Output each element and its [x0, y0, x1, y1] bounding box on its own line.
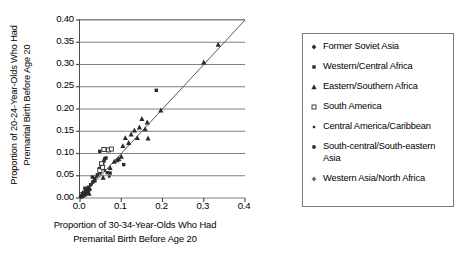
data-point — [312, 45, 317, 50]
data-point — [145, 136, 150, 141]
data-point — [132, 128, 137, 133]
triangle-marker-icon — [309, 81, 323, 92]
legend-item[interactable]: Eastern/Southern Africa — [309, 81, 449, 93]
legend-label: South-central/South-eastern Asia — [323, 141, 449, 164]
x-tick-label: 0.3 — [183, 200, 223, 212]
data-point — [312, 176, 316, 180]
legend-item[interactable]: Central America/Caribbean — [309, 121, 449, 133]
data-point — [126, 140, 131, 145]
y-tick-label: 0.35 — [44, 36, 74, 46]
y-axis-title-line-1: Proportion of 20-24-Year-Olds Who Had — [8, 25, 21, 184]
data-point — [312, 65, 315, 68]
open-square-marker-icon — [309, 101, 323, 112]
chart-figure: Proportion of 20-24-Year-Olds Who Had Pr… — [0, 0, 473, 265]
data-point — [98, 150, 101, 153]
data-point — [99, 172, 101, 174]
legend-item[interactable]: Former Soviet Asia — [309, 41, 449, 53]
legend-label: Eastern/Southern Africa — [323, 81, 418, 93]
data-point — [95, 175, 97, 177]
data-point — [102, 147, 106, 151]
x-tick-label: 0.2 — [142, 200, 182, 212]
y-tick-label: 0.20 — [44, 103, 74, 113]
data-point — [109, 147, 113, 151]
legend-label: Western/Central Africa — [323, 61, 413, 73]
data-point — [119, 154, 124, 159]
data-point — [137, 124, 142, 129]
x-axis-title-line-2: Premarital Birth Before Age 20 — [20, 232, 250, 246]
y-tick-label: 0.40 — [44, 14, 74, 24]
data-point — [312, 105, 316, 109]
square-marker-icon — [309, 61, 323, 72]
diamond-marker-icon — [309, 41, 323, 52]
data-point — [122, 163, 125, 166]
data-point — [155, 89, 158, 92]
y-axis-ticks — [76, 20, 80, 198]
legend-label: Central America/Caribbean — [323, 121, 431, 133]
data-point — [123, 135, 128, 140]
data-point — [313, 126, 315, 128]
legend-item[interactable]: Western/Central Africa — [309, 61, 449, 73]
data-point — [108, 175, 110, 177]
data-point — [91, 175, 94, 178]
plot-area — [79, 19, 245, 198]
legend-items: Former Soviet AsiaWestern/Central Africa… — [303, 34, 453, 206]
y-tick-label: 0.25 — [44, 80, 74, 90]
x-tick-label: 0.4 — [224, 200, 264, 212]
plus-marker-icon — [309, 173, 323, 184]
y-tick-label: 0.05 — [44, 169, 74, 179]
legend-item[interactable]: South America — [309, 101, 449, 113]
y-tick-label: 0.10 — [44, 147, 74, 157]
data-point — [104, 169, 106, 171]
y-tick-label: 0.30 — [44, 58, 74, 68]
small-square-marker-icon — [309, 121, 323, 132]
data-point — [120, 143, 125, 148]
data-point — [108, 171, 111, 174]
y-axis-title: Proportion of 20-24-Year-Olds Who Had Pr… — [0, 0, 40, 210]
x-tick-label: 0.0 — [59, 200, 99, 212]
legend: Former Soviet AsiaWestern/Central Africa… — [302, 33, 454, 207]
dot-marker-icon — [309, 141, 323, 152]
x-tick-label: 0.1 — [100, 200, 140, 212]
legend-label: Western Asia/North Africa — [323, 173, 425, 185]
y-tick-label: 0.15 — [44, 125, 74, 135]
x-axis-title-line-1: Proportion of 30-34-Year-Olds Who Had — [20, 218, 250, 232]
x-axis-title: Proportion of 30-34-Year-Olds Who Had Pr… — [20, 218, 250, 245]
data-point — [145, 120, 150, 125]
y-axis-title-line-2: Premarital Birth Before Age 20 — [20, 25, 33, 184]
data-point — [139, 116, 144, 121]
legend-item[interactable]: Western Asia/North Africa — [309, 173, 449, 185]
legend-label: Former Soviet Asia — [323, 41, 399, 53]
legend-item[interactable]: South-central/South-eastern Asia — [309, 141, 449, 164]
data-point — [143, 126, 148, 131]
data-point — [101, 165, 105, 169]
data-point — [312, 145, 316, 149]
data-point — [92, 180, 94, 182]
legend-label: South America — [323, 101, 382, 113]
data-point — [311, 84, 316, 89]
plot-canvas — [80, 20, 245, 198]
data-point — [104, 156, 107, 159]
